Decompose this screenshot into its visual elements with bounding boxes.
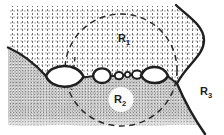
cavity-3 (115, 72, 123, 79)
diagram-linework (0, 0, 224, 135)
label-r1-base: R (118, 32, 126, 44)
diagram-canvas: R1 R2 R3 (0, 0, 224, 135)
cavity-2 (93, 68, 111, 83)
region-label-r1: R1 (118, 33, 130, 48)
region-label-r2: R2 (114, 94, 126, 109)
label-r1-subscript: 1 (126, 38, 130, 47)
cavity-large-right (141, 67, 168, 83)
cavity-4 (125, 72, 130, 77)
label-r3-subscript: 3 (208, 91, 212, 100)
cavity-large-left (46, 66, 84, 87)
grain-boundary-right (176, 5, 205, 134)
label-r2-base: R (114, 93, 122, 105)
grain-boundary-left (8, 48, 46, 77)
label-r3-base: R (200, 85, 208, 97)
region-label-r3: R3 (200, 86, 212, 101)
label-r2-subscript: 2 (122, 99, 126, 108)
